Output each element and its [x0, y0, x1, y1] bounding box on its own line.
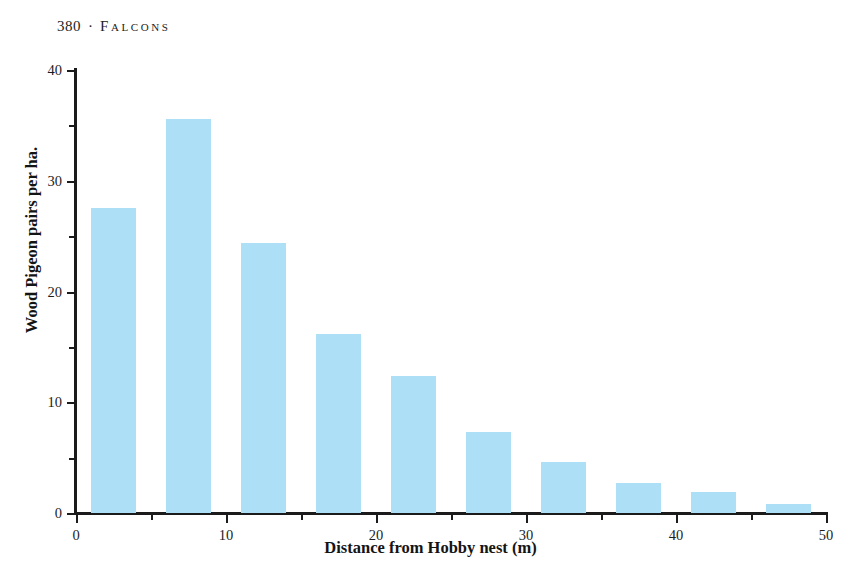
bar	[541, 462, 586, 513]
y-tick-label: 40	[48, 62, 63, 79]
y-tick-mark	[67, 402, 76, 404]
bar	[241, 243, 286, 513]
x-tick-mark	[151, 513, 153, 520]
bar	[466, 432, 511, 513]
x-tick-mark	[301, 513, 303, 520]
y-tick-mark	[69, 347, 76, 349]
x-tick-mark	[601, 513, 603, 520]
x-axis-title: Distance from Hobby nest (m)	[0, 538, 861, 558]
x-tick-mark	[226, 513, 228, 523]
plot-area: 010203040 01020304050	[76, 70, 826, 513]
y-axis-title: Wood Pigeon pairs per ha.	[22, 90, 42, 390]
y-tick-mark	[67, 70, 76, 72]
x-tick-mark	[676, 513, 678, 523]
bar	[691, 492, 736, 513]
y-tick-mark	[67, 181, 76, 183]
bar	[166, 119, 211, 513]
y-tick-label: 20	[48, 283, 63, 300]
y-tick-label: 30	[48, 172, 63, 189]
x-tick-mark	[451, 513, 453, 520]
bar-chart-figure: 010203040 01020304050 Wood Pigeon pairs …	[0, 0, 861, 579]
y-tick-mark	[67, 292, 76, 294]
y-tick-mark	[67, 513, 76, 515]
x-tick-mark	[376, 513, 378, 523]
x-tick-mark	[526, 513, 528, 523]
bar	[91, 208, 136, 513]
x-tick-mark	[751, 513, 753, 520]
y-tick-mark	[69, 236, 76, 238]
y-tick-label: 0	[55, 505, 62, 522]
x-tick-mark	[76, 513, 78, 523]
x-tick-mark	[826, 513, 828, 523]
bar	[616, 483, 661, 513]
y-tick-mark	[69, 125, 76, 127]
bar	[766, 504, 811, 513]
bar	[391, 376, 436, 513]
y-tick-label: 10	[48, 394, 63, 411]
y-tick-mark	[69, 458, 76, 460]
bar	[316, 334, 361, 513]
